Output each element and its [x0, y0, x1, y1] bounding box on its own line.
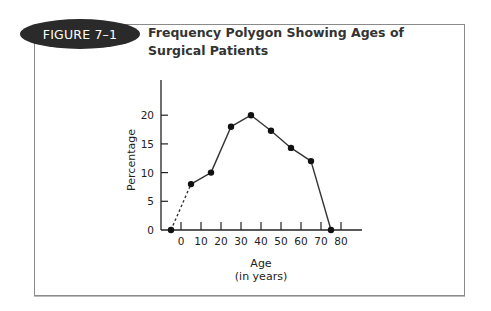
x-tick-label: 0	[178, 235, 185, 247]
line-segment	[311, 161, 331, 230]
data-point	[168, 227, 174, 233]
x-tick-label: 20	[214, 235, 227, 247]
data-point	[228, 123, 234, 129]
x-tick-label: 60	[294, 235, 307, 247]
data-point	[208, 169, 214, 175]
line-segment	[191, 173, 211, 184]
frequency-polygon-chart: 0510152001020304050607080Age(in years)Pe…	[0, 0, 491, 311]
y-tick-label: 5	[147, 195, 154, 207]
x-tick-label: 50	[274, 235, 287, 247]
data-point	[328, 227, 334, 233]
data-point	[248, 112, 254, 118]
x-tick-label: 40	[254, 235, 267, 247]
data-point	[188, 181, 194, 187]
data-point	[268, 127, 274, 133]
x-tick-label: 70	[314, 235, 327, 247]
line-segment	[291, 148, 311, 161]
y-tick-label: 10	[141, 167, 154, 179]
data-point	[288, 145, 294, 151]
y-tick-label: 15	[141, 138, 154, 150]
x-tick-label: 10	[194, 235, 207, 247]
x-tick-label: 30	[234, 235, 247, 247]
line-segment	[231, 115, 251, 126]
line-segment	[211, 127, 231, 173]
y-tick-label: 20	[141, 109, 154, 121]
line-segment	[251, 115, 271, 130]
y-axis-label: Percentage	[125, 129, 138, 191]
x-tick-label: 80	[334, 235, 347, 247]
data-point	[308, 158, 314, 164]
line-segment	[271, 131, 291, 148]
x-axis-sublabel: (in years)	[235, 270, 287, 283]
y-tick-label: 0	[147, 224, 154, 236]
x-axis-label: Age	[250, 257, 272, 270]
